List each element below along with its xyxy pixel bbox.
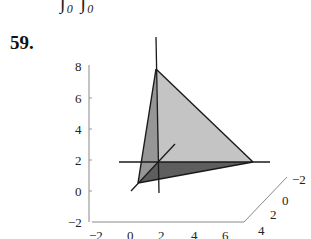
tetrahedron-plot: 8 6 4 2 0 −2 −2 0 2 4 6 −2 0 2 4 <box>0 0 311 239</box>
svg-text:4: 4 <box>191 228 198 239</box>
svg-text:−2: −2 <box>89 228 103 239</box>
svg-text:−2: −2 <box>68 215 82 230</box>
svg-text:4: 4 <box>258 223 265 238</box>
svg-text:8: 8 <box>75 59 82 74</box>
svg-text:0: 0 <box>282 193 289 208</box>
svg-text:2: 2 <box>75 153 82 168</box>
svg-text:6: 6 <box>75 91 82 106</box>
z-axis-ticks: 8 6 4 2 0 −2 <box>68 59 82 230</box>
svg-text:6: 6 <box>222 228 229 239</box>
svg-text:0: 0 <box>75 184 82 199</box>
svg-text:−2: −2 <box>292 172 306 187</box>
svg-text:2: 2 <box>158 228 165 239</box>
x-axis-ticks: −2 0 2 4 6 <box>89 228 229 239</box>
svg-text:0: 0 <box>127 228 134 239</box>
svg-text:2: 2 <box>270 207 277 222</box>
svg-text:4: 4 <box>75 122 82 137</box>
